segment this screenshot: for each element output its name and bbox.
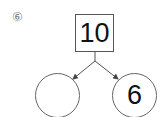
part-right-circle: 6 — [112, 73, 157, 117]
arrow-left-icon — [73, 61, 95, 79]
arrow-right-icon — [95, 61, 118, 79]
part-left-answer-circle[interactable] — [35, 73, 80, 117]
